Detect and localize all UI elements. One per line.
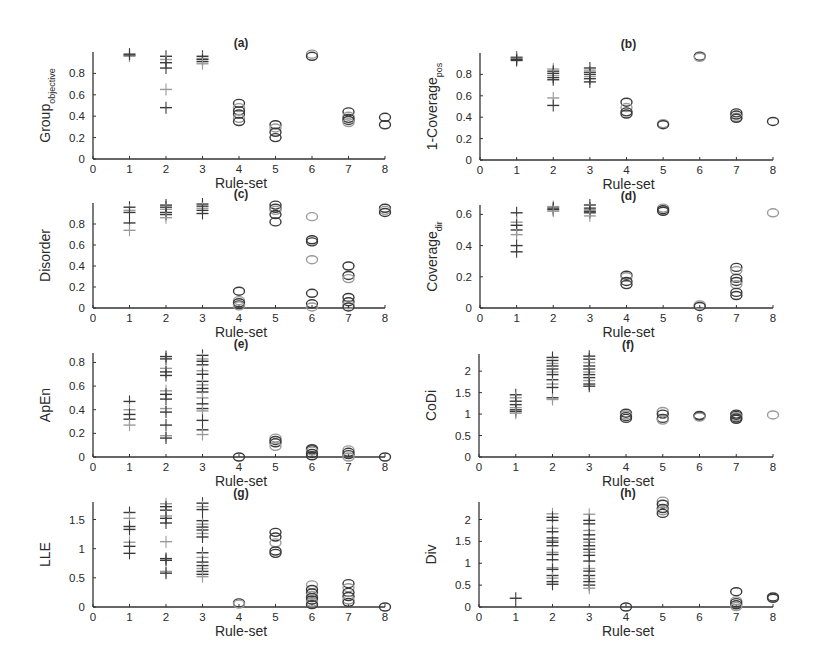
x-tick-label: 1 (513, 312, 519, 324)
x-tick-label: 6 (309, 461, 315, 473)
panel-title: (b) (621, 37, 636, 51)
y-tick-label: 0 (79, 302, 85, 314)
x-tick-label: 3 (199, 611, 205, 623)
y-tick-label: 1.5 (455, 535, 471, 547)
y-tick-label: 0.2 (69, 427, 85, 439)
y-tick-label: 0.6 (456, 208, 472, 220)
x-tick-label: 0 (476, 461, 482, 473)
series-circle (234, 201, 391, 311)
x-axis-label: Rule-set (215, 623, 267, 639)
x-tick-label: 7 (345, 611, 351, 623)
x-tick-label: 7 (345, 312, 351, 324)
y-tick-label: 1.5 (69, 514, 85, 526)
y-tick-label: 0.8 (456, 68, 472, 80)
x-tick-label: 0 (90, 163, 96, 175)
x-tick-label: 8 (770, 164, 776, 176)
x-tick-label: 5 (660, 312, 666, 324)
x-tick-label: 5 (660, 164, 666, 176)
x-tick-label: 0 (90, 611, 96, 623)
series-plus (124, 198, 209, 236)
y-tick-label: 2 (465, 514, 471, 526)
x-tick-label: 2 (550, 312, 556, 324)
x-tick-label: 7 (733, 461, 739, 473)
x-tick-label: 2 (163, 461, 169, 473)
x-tick-label: 1 (126, 611, 132, 623)
y-tick-label: 0.2 (69, 281, 85, 293)
x-tick-label: 1 (126, 163, 132, 175)
y-tick-label: 0.6 (456, 90, 472, 102)
x-tick-label: 8 (382, 163, 388, 175)
y-tick-label: 0 (79, 451, 85, 463)
x-tick-label: 7 (345, 461, 351, 473)
y-tick-label: 2 (465, 365, 471, 377)
x-tick-label: 1 (513, 611, 519, 623)
panel-title: (a) (234, 36, 249, 50)
panel-e: 01234567800.20.40.60.8(e)Rule-setApEn (37, 337, 391, 489)
y-tick-label: 0.5 (69, 572, 85, 584)
y-tick-label: 0.4 (69, 260, 86, 272)
x-tick-label: 4 (623, 312, 630, 324)
y-tick-label: 0.8 (69, 218, 85, 230)
y-tick-label: 0.4 (456, 111, 473, 123)
x-tick-label: 4 (623, 611, 630, 623)
y-axis-label: Div (423, 544, 439, 564)
panel-a: 01234567800.20.40.60.8(a)Rule-setGroupob… (37, 36, 391, 191)
x-tick-label: 8 (382, 461, 388, 473)
x-tick-label: 4 (623, 461, 630, 473)
y-tick-label: 0.8 (69, 356, 85, 368)
x-tick-label: 7 (733, 164, 739, 176)
x-tick-label: 3 (587, 312, 593, 324)
panel-d: 01234567800.20.40.6(d)Rule-setCoveragedi… (424, 189, 779, 340)
x-tick-label: 5 (272, 611, 278, 623)
x-axis-label: Rule-set (602, 623, 654, 639)
x-tick-label: 6 (697, 164, 703, 176)
x-tick-label: 1 (126, 461, 132, 473)
series-circle (621, 497, 779, 611)
x-tick-label: 0 (477, 164, 483, 176)
x-tick-label: 5 (660, 611, 666, 623)
y-axis-label: Coveragedir (424, 221, 444, 292)
x-tick-label: 7 (733, 611, 739, 623)
x-tick-label: 2 (163, 312, 169, 324)
y-axis-label: 1-Coveragepos (424, 62, 444, 150)
series-circle (621, 408, 779, 425)
x-tick-label: 6 (309, 312, 315, 324)
scatter-panels: 01234567800.20.40.60.8(a)Rule-setGroupob… (0, 0, 817, 672)
y-tick-label: 0 (465, 451, 471, 463)
panel-g: 01234567800.511.5(g)Rule-setLLE (37, 486, 391, 639)
x-tick-label: 5 (272, 163, 278, 175)
series-plus (124, 48, 209, 114)
y-axis-label: Disorder (37, 229, 53, 282)
x-tick-label: 8 (770, 461, 776, 473)
x-tick-label: 6 (696, 611, 702, 623)
y-axis-label: Groupobjective (37, 68, 57, 142)
x-tick-label: 1 (513, 461, 519, 473)
x-tick-label: 3 (587, 164, 593, 176)
x-tick-label: 0 (477, 312, 483, 324)
y-tick-label: 0 (79, 601, 85, 613)
series-plus (124, 497, 209, 583)
series-circle (621, 52, 779, 128)
y-tick-label: 0.6 (69, 380, 85, 392)
y-tick-label: 0.5 (455, 579, 471, 591)
y-tick-label: 0.4 (456, 240, 473, 252)
series-circle (234, 528, 391, 611)
x-tick-label: 2 (163, 163, 169, 175)
y-tick-label: 0 (79, 153, 85, 165)
series-plus (511, 51, 596, 111)
y-axis-label: ApEn (37, 388, 53, 422)
y-tick-label: 1 (465, 408, 471, 420)
x-tick-label: 0 (90, 312, 96, 324)
y-axis-label: LLE (37, 542, 53, 567)
x-tick-label: 0 (90, 461, 96, 473)
y-tick-label: 0 (466, 302, 472, 314)
panel-h: 01234567800.511.52(h)Rule-setDiv (423, 486, 779, 639)
y-tick-label: 0.2 (456, 133, 472, 145)
x-tick-label: 8 (382, 611, 388, 623)
y-tick-label: 0.2 (456, 271, 472, 283)
panel-title: (g) (233, 486, 248, 500)
x-tick-label: 8 (770, 611, 776, 623)
y-tick-label: 0.6 (69, 89, 85, 101)
x-tick-label: 7 (733, 312, 739, 324)
x-tick-label: 2 (549, 461, 555, 473)
